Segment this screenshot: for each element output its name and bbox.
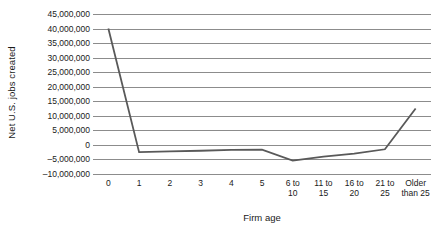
- plot-area: [93, 14, 431, 174]
- y-tick-label: 0: [22, 140, 90, 149]
- y-axis-title-text: Net U.S. jobs created: [6, 46, 17, 138]
- y-axis-tick-labels: 45,000,00040,000,00035,000,00030,000,000…: [22, 14, 93, 174]
- x-axis-title: Firm age: [93, 212, 431, 223]
- x-tick-label-line2: 10: [288, 188, 297, 198]
- y-tick-label: 25,000,000: [22, 68, 90, 77]
- y-tick-label: 10,000,000: [22, 111, 90, 120]
- y-tick-label: 35,000,000: [22, 39, 90, 48]
- y-tick-label: 5,000,000: [22, 126, 90, 135]
- y-tick-label: 20,000,000: [22, 82, 90, 91]
- x-tick-label-line2: 15: [319, 188, 328, 198]
- x-axis-tick-labels: 0123456 to1011 to1516 to2021 to25Olderth…: [93, 178, 431, 204]
- y-tick-label: 15,000,000: [22, 97, 90, 106]
- y-tick-label: 30,000,000: [22, 53, 90, 62]
- series-polyline: [108, 29, 415, 161]
- line-chart-figure: Net U.S. jobs created 45,000,00040,000,0…: [0, 0, 437, 240]
- x-tick-label: Olderthan 25: [393, 178, 437, 198]
- x-tick-label-line2: 20: [349, 188, 358, 198]
- x-tick-label-line2: 25: [380, 188, 389, 198]
- y-tick-label: 45,000,000: [22, 10, 90, 19]
- y-axis-title: Net U.S. jobs created: [0, 0, 22, 185]
- y-tick-label: 40,000,000: [22, 24, 90, 33]
- x-tick-label-line2: than 25: [401, 188, 429, 198]
- gridline: [93, 174, 431, 175]
- y-tick-label: –5,000,000: [22, 155, 90, 164]
- y-tick-label: –10,000,000: [22, 170, 90, 179]
- data-series-line: [93, 14, 431, 174]
